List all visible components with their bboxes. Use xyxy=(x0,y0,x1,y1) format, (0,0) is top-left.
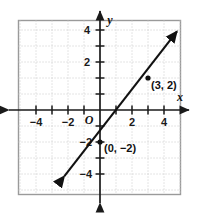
point-label-0--2: (0, −2) xyxy=(104,142,136,154)
y-axis-label: y xyxy=(105,13,113,27)
coordinate-plane-svg: −4 −2 2 4 4 2 −2 −4 O x y (3, 2) (0, −2) xyxy=(0,0,198,214)
x-tick-label--2: −2 xyxy=(62,116,75,128)
data-point-0--2 xyxy=(97,139,102,144)
y-tick-label-2: 2 xyxy=(84,56,90,68)
origin-label: O xyxy=(85,113,94,127)
y-tick-label--4: −4 xyxy=(79,168,92,180)
x-tick-label-4: 4 xyxy=(161,116,168,128)
data-point-3-2 xyxy=(145,75,150,80)
figure-background xyxy=(0,0,198,214)
x-tick-label--4: −4 xyxy=(30,116,43,128)
x-tick-label-2: 2 xyxy=(129,116,135,128)
point-label-3-2: (3, 2) xyxy=(151,79,177,91)
y-tick-label-4: 4 xyxy=(84,24,91,36)
x-axis-label: x xyxy=(176,90,183,104)
figure-container: −4 −2 2 4 4 2 −2 −4 O x y (3, 2) (0, −2) xyxy=(0,0,198,214)
